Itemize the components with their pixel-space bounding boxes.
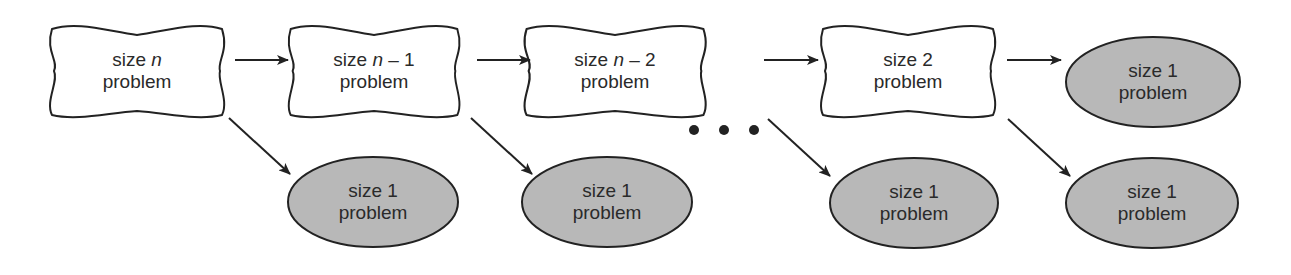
label-size-1-top: size 1problem — [1119, 60, 1188, 104]
arrow-diag-2 — [471, 118, 532, 174]
label-size-2: size 2 problem — [874, 49, 943, 93]
label-size-n-minus-1: size n – 1 problem — [333, 49, 414, 93]
arrow-diag-4 — [1008, 119, 1070, 176]
arrow-diag-3 — [768, 119, 830, 176]
arrow-diag-1 — [229, 118, 290, 174]
label-size-1-c: size 1problem — [880, 181, 949, 225]
label-size-1-d: size 1problem — [1118, 181, 1187, 225]
ellipsis-dots — [689, 125, 759, 135]
label-size-1-a: size 1problem — [339, 180, 408, 224]
label-size-1-b: size 1problem — [573, 180, 642, 224]
label-size-n-minus-2: size n – 2 problem — [574, 49, 655, 93]
recursion-diagram — [0, 0, 1291, 275]
label-size-n: size n problem — [103, 49, 172, 93]
